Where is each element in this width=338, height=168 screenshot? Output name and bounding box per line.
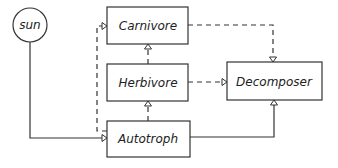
edge-autotroph-decomposer bbox=[190, 104, 274, 137]
node-sun: sun bbox=[13, 8, 47, 42]
arrowhead-icon bbox=[145, 101, 152, 106]
autotroph-label: Autotroph bbox=[117, 132, 178, 146]
edge-carnivore-decomposer bbox=[188, 25, 273, 58]
edge-autotroph-carnivore bbox=[97, 26, 107, 131]
arrowhead-icon bbox=[145, 44, 152, 49]
arrowhead-icon bbox=[102, 23, 107, 30]
node-carnivore: Carnivore bbox=[107, 7, 188, 44]
arrowhead-icon bbox=[271, 100, 278, 105]
decomposer-label: Decomposer bbox=[236, 75, 313, 89]
node-autotroph: Autotroph bbox=[107, 121, 190, 157]
arrowhead-icon bbox=[270, 57, 277, 62]
edge-sun-autotroph bbox=[30, 42, 105, 138]
sun-label: sun bbox=[19, 18, 40, 32]
arrowhead-icon bbox=[102, 135, 107, 142]
carnivore-label: Carnivore bbox=[119, 19, 177, 33]
arrowhead-icon bbox=[222, 79, 227, 86]
herbivore-label: Herbivore bbox=[118, 76, 177, 90]
node-herbivore: Herbivore bbox=[107, 64, 188, 101]
node-decomposer: Decomposer bbox=[227, 62, 322, 100]
food-web-diagram: sun Carnivore Herbivore Autotroph Decomp… bbox=[0, 0, 338, 168]
